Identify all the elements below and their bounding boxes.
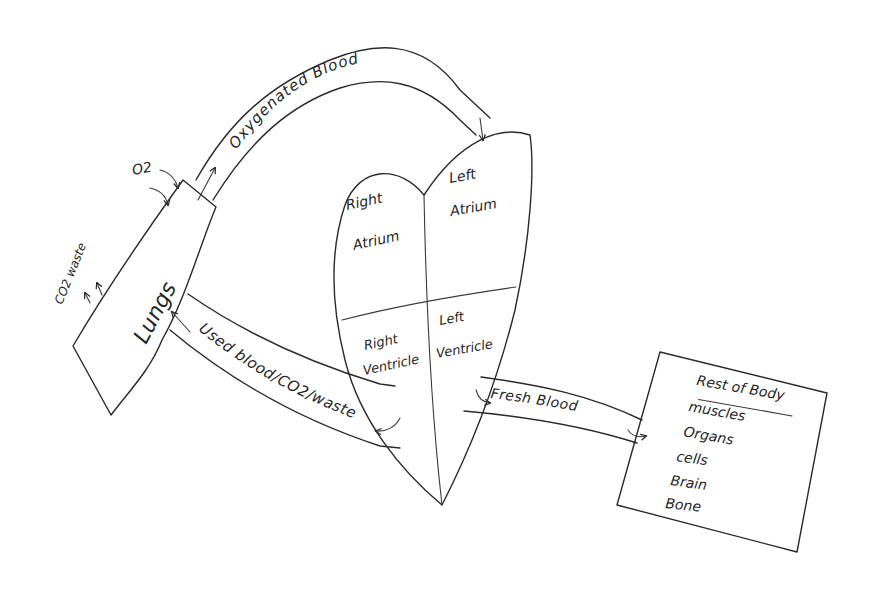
rest-of-body: Rest of Body muscles Organs cells Brain … xyxy=(617,352,827,552)
lungs: Lungs xyxy=(73,180,216,415)
lungs-label: Lungs xyxy=(128,278,181,348)
svg-text:Left: Left xyxy=(438,309,466,328)
lungs-shape xyxy=(73,180,216,415)
used-blood-label: Used blood/CO2/waste xyxy=(196,319,360,422)
oxygenated-blood-label: Oxygenated Blood xyxy=(225,49,361,152)
body-item: muscles xyxy=(687,398,746,424)
used-blood-arrow-icon-2 xyxy=(376,418,400,431)
right-ventricle: Right Ventricle xyxy=(362,331,421,378)
o2-label: O2 xyxy=(131,159,153,178)
heart-outline xyxy=(334,132,532,505)
rest-of-body-title: Rest of Body xyxy=(696,372,787,403)
left-ventricle: Left Ventricle xyxy=(435,309,494,361)
edge-oxygenated-blood: Oxygenated Blood xyxy=(196,48,490,200)
svg-text:Atrium: Atrium xyxy=(448,195,498,219)
svg-text:Ventricle: Ventricle xyxy=(435,336,494,361)
co2-waste-label: CO2 waste xyxy=(52,241,89,306)
body-item: Brain xyxy=(670,472,709,493)
o2-arrow-icon xyxy=(160,170,178,188)
fresh-blood-label: Fresh Blood xyxy=(490,385,580,414)
edge-fresh-blood: Fresh Blood xyxy=(464,377,646,443)
right-atrium: Right Atrium xyxy=(344,190,401,254)
co2-arrow-icon xyxy=(85,293,90,303)
body-item: cells xyxy=(676,448,709,468)
svg-text:Left: Left xyxy=(448,165,478,186)
circulation-diagram: Lungs O2 CO2 waste Oxygenated Blood Righ… xyxy=(0,0,874,593)
heart: Right Atrium Left Atrium Right Ventricle… xyxy=(334,132,532,505)
atria-ventricle-divider xyxy=(342,287,516,320)
left-atrium: Left Atrium xyxy=(448,165,498,219)
co2-arrow-icon-2 xyxy=(97,283,102,295)
co2-output: CO2 waste xyxy=(52,241,102,306)
used-blood-arrow-icon xyxy=(172,312,190,332)
svg-text:Ventricle: Ventricle xyxy=(362,351,421,378)
body-item: Bone xyxy=(665,495,702,515)
body-item: Organs xyxy=(682,423,734,448)
oxygenated-arrow-icon-2 xyxy=(480,118,483,140)
svg-text:Right: Right xyxy=(363,331,400,353)
svg-text:Atrium: Atrium xyxy=(350,227,401,253)
o2-arrow-icon-2 xyxy=(150,188,168,205)
